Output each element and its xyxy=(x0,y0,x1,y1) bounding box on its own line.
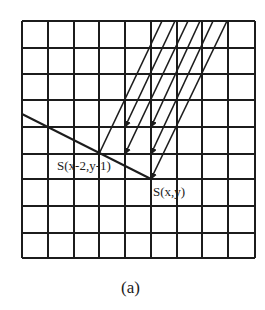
direction-arrow xyxy=(151,21,213,154)
pixel-grid xyxy=(22,21,255,258)
label-point-s-x-y: S(x,y) xyxy=(153,184,185,199)
direction-line xyxy=(99,21,162,154)
figure-caption: (a) xyxy=(121,278,140,297)
label-point-s-x-2-y-1: S(x-2,y-1) xyxy=(57,158,111,173)
direction-arrow xyxy=(125,21,188,154)
diagram-canvas: S(x-2,y-1) S(x,y) (a) xyxy=(0,0,265,310)
